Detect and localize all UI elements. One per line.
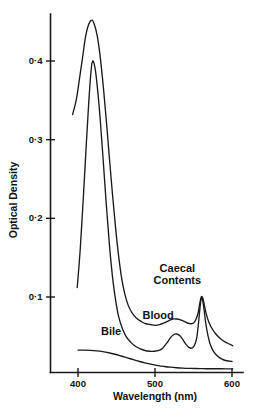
y-tick-label-0: 0·1 (29, 291, 43, 302)
optical-density-spectrum-chart: 0·10·20·30·4400500600 CaecalContentsBloo… (0, 0, 266, 418)
series-curve-caecal-contents (73, 20, 233, 346)
y-tick-label-1: 0·2 (29, 212, 43, 223)
series-curve-bile (78, 350, 233, 369)
bile-label: Bile (101, 325, 121, 337)
x-axis-title: Wavelength (nm) (113, 390, 197, 402)
blood-label-line-0: Blood (142, 309, 173, 321)
x-tick-label-2: 600 (224, 378, 240, 389)
bile-label-line-0: Bile (101, 325, 121, 337)
caecal-contents-label-line-1: Contents (153, 274, 201, 286)
x-tick-label-1: 500 (147, 378, 163, 389)
y-tick-label-2: 0·3 (29, 134, 43, 145)
blood-label: Blood (142, 309, 173, 321)
caecal-contents-label: CaecalContents (153, 262, 201, 287)
y-axis-title: Optical Density (7, 162, 19, 239)
x-tick-label-0: 400 (70, 378, 86, 389)
chart-plot-area: 0·10·20·30·4400500600 CaecalContentsBloo… (0, 0, 266, 418)
y-tick-label-3: 0·4 (29, 55, 43, 66)
caecal-contents-label-line-0: Caecal (160, 262, 195, 274)
